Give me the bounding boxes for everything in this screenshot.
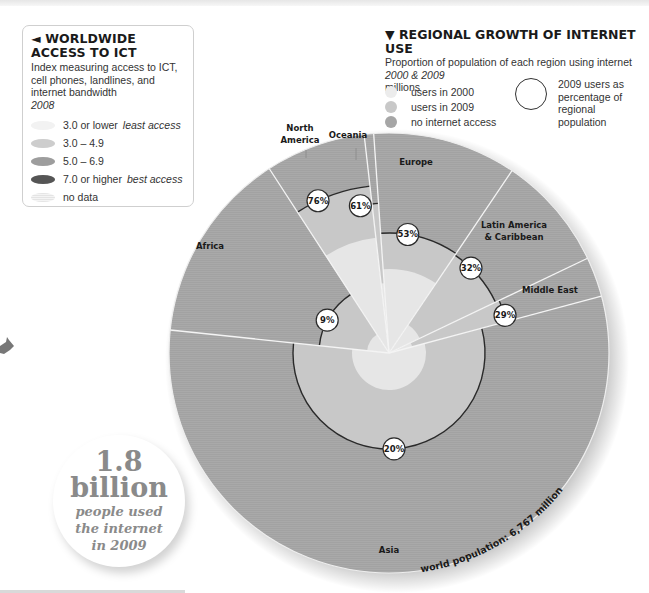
growth-legend-item: users in 2000 <box>385 84 496 99</box>
percentage-ring-label: 2009 users as percentage of regional pop… <box>558 78 640 128</box>
ict-legend-title: ◄ WORLDWIDE ACCESS TO ICT <box>31 32 185 60</box>
svg-text:29%: 29% <box>495 310 516 320</box>
ict-swatch-icon <box>31 175 55 184</box>
percentage-badge-middle-east: 29% <box>494 304 516 326</box>
growth-legend-label: users in 2000 <box>411 86 474 98</box>
percentage-badge-north-america: 76% <box>307 190 329 212</box>
ict-legend-item: 5.0 – 6.9 <box>31 152 185 170</box>
ict-legend-items: 3.0 or lower least access 3.0 – 4.9 5.0 … <box>31 116 185 206</box>
growth-legend-label: no internet access <box>411 116 496 128</box>
ict-legend-item: 7.0 or higher best access <box>31 170 185 188</box>
growth-legend-item: users in 2009 <box>385 99 496 114</box>
svg-text:53%: 53% <box>398 229 419 239</box>
svg-text:20%: 20% <box>384 444 405 454</box>
ict-swatch-icon <box>31 193 55 202</box>
percentage-badge-oceania: 61% <box>349 195 371 217</box>
ict-swatch-icon <box>31 139 55 148</box>
ict-legend-item: 3.0 – 4.9 <box>31 134 185 152</box>
ict-legend-label: 3.0 or lower <box>63 119 118 131</box>
ict-legend-label: 3.0 – 4.9 <box>63 137 104 149</box>
callout-line-3: in 2009 <box>53 537 185 554</box>
ict-legend-label: 7.0 or higher <box>63 173 122 185</box>
ict-access-legend: ◄ WORLDWIDE ACCESS TO ICT Index measurin… <box>22 25 194 207</box>
users-2009-arc <box>372 203 379 204</box>
ict-swatch-icon <box>31 121 55 130</box>
growth-legend-item: no internet access <box>385 114 496 129</box>
percentage-badge-africa: 9% <box>316 309 338 331</box>
ict-swatch-icon <box>31 157 55 166</box>
users-2009-swatch-icon <box>385 101 397 113</box>
growth-legend-title: ▼ REGIONAL GROWTH OF INTERNET USE <box>385 28 649 56</box>
percentage-badge-europe: 53% <box>397 223 419 245</box>
svg-text:9%: 9% <box>320 315 335 325</box>
region-label-asia: Asia <box>379 545 400 555</box>
percentage-badge-asia: 20% <box>383 438 405 460</box>
internet-users-callout: 1.8 billion people used the internet in … <box>53 435 185 567</box>
map-fragment-icon <box>0 334 14 356</box>
percentage-badge-latin-america-caribbean: 32% <box>460 257 482 279</box>
ict-legend-label: 5.0 – 6.9 <box>63 155 104 167</box>
region-label-europe: Europe <box>399 157 433 167</box>
callout-line-2: the internet <box>53 520 185 537</box>
svg-text:76%: 76% <box>308 196 329 206</box>
callout-unit: billion <box>53 475 185 501</box>
growth-legend-items: users in 2000 users in 2009 no internet … <box>385 84 496 129</box>
ict-legend-item: no data <box>31 188 185 206</box>
region-label-oceania: Oceania <box>329 130 368 140</box>
no-access-swatch-icon <box>385 116 397 128</box>
ict-legend-note: least access <box>123 119 181 131</box>
percentage-ring-icon <box>515 78 547 110</box>
region-label-north-america: NorthAmerica <box>280 123 319 145</box>
svg-text:61%: 61% <box>350 201 371 211</box>
ict-legend-subtitle: Index measuring access to ICT, cell phon… <box>31 61 185 99</box>
svg-text:32%: 32% <box>461 263 482 273</box>
users-2000-swatch-icon <box>385 86 397 98</box>
callout-line-1: people used <box>53 503 185 520</box>
ict-legend-year: 2008 <box>31 99 185 112</box>
region-label-africa: Africa <box>196 241 224 251</box>
growth-legend-subtitle: Proportion of population of each region … <box>385 56 649 69</box>
ict-legend-note: best access <box>127 173 182 185</box>
region-label-middle-east: Middle East <box>522 285 578 295</box>
regional-growth-legend: ▼ REGIONAL GROWTH OF INTERNET USE Propor… <box>385 28 649 94</box>
ict-legend-item: 3.0 or lower least access <box>31 116 185 134</box>
growth-legend-label: users in 2009 <box>411 101 474 113</box>
ict-legend-label: no data <box>63 191 98 203</box>
